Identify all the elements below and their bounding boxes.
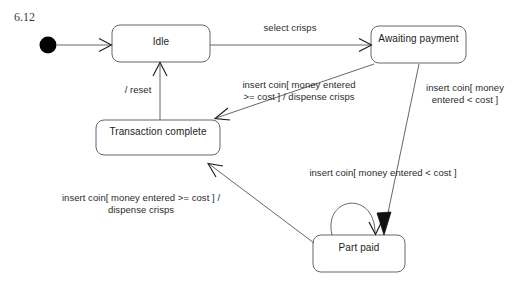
edge-label-reset: / reset: [113, 84, 163, 96]
arrowhead-awaiting-to-partpaid: [377, 212, 391, 235]
state-diagram-canvas: 6.12 Idle Awaiting payment Transaction c…: [0, 0, 530, 290]
edge-label-awaiting-to-complete: insert coin[ money entered >= cost ] / d…: [219, 79, 379, 103]
edge-label-partpaid-self-loop: insert coin[ money entered < cost ]: [263, 167, 503, 179]
state-box-part-paid[interactable]: [313, 235, 405, 272]
initial-state-node: [40, 37, 57, 54]
edge-label-select-crisps: select crisps: [230, 22, 350, 34]
arrowhead-partpaid-to-complete: [208, 164, 223, 178]
state-label-idle: Idle: [112, 36, 210, 47]
state-label-awaiting-payment: Awaiting payment: [371, 33, 466, 44]
state-box-awaiting-payment[interactable]: [371, 26, 466, 63]
state-label-transaction-complete: Transaction complete: [96, 126, 220, 137]
state-label-part-paid: Part paid: [313, 242, 405, 253]
edge-partpaid-self-loop: [331, 203, 375, 235]
edge-label-awaiting-to-partpaid: insert coin[ money entered < cost ]: [410, 82, 520, 106]
figure-number: 6.12: [14, 10, 35, 25]
edge-label-partpaid-to-complete: insert coin[ money entered >= cost ] / d…: [32, 192, 250, 216]
